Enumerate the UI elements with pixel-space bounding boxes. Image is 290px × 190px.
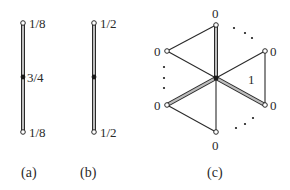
- open-vertex-icon: [92, 130, 97, 135]
- open-vertex-icon: [263, 49, 268, 54]
- open-vertex-icon: [21, 21, 26, 26]
- open-vertex-icon: [21, 130, 26, 135]
- open-vertex-icon: [214, 23, 219, 28]
- caption-a: (a): [21, 165, 37, 181]
- open-vertex-icon: [214, 130, 219, 135]
- panel-a: 1/8 3/4 1/8 (a): [21, 16, 46, 181]
- open-vertex-icon: [92, 21, 97, 26]
- vertex-label-lower-right: 0: [270, 98, 277, 113]
- open-vertex-icon: [165, 103, 170, 108]
- panel-c: 0 0 0 0 0 0 1 (c): [154, 6, 277, 181]
- ellipsis-dots: [163, 27, 254, 129]
- caption-b: (b): [80, 165, 97, 181]
- face-weight-label: 1: [248, 72, 255, 87]
- filled-vertex-icon: [21, 75, 26, 80]
- vertex-label-top: 0: [212, 6, 219, 21]
- open-vertex-icon: [165, 49, 170, 54]
- bottom-weight-label: 1/2: [100, 125, 117, 140]
- filled-vertex-icon: [92, 75, 97, 80]
- bottom-weight-label: 1/8: [29, 125, 46, 140]
- top-weight-label: 1/2: [100, 16, 117, 31]
- middle-weight-label: 3/4: [27, 70, 44, 85]
- center-vertex-icon: [214, 76, 219, 81]
- figure-canvas: 1/8 3/4 1/8 (a) 1/2 1/2 (b): [0, 0, 290, 190]
- open-vertex-icon: [263, 103, 268, 108]
- vertex-label-bottom: 0: [212, 138, 219, 153]
- panel-b: 1/2 1/2 (b): [80, 16, 117, 181]
- vertex-label-upper-left: 0: [154, 44, 161, 59]
- vertex-label-upper-right: 0: [270, 44, 277, 59]
- top-weight-label: 1/8: [29, 16, 46, 31]
- vertex-label-lower-left: 0: [154, 98, 161, 113]
- caption-c: (c): [207, 165, 223, 181]
